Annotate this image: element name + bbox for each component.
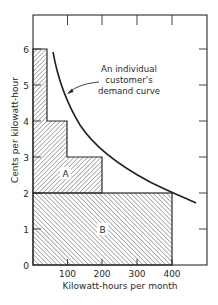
svg-text:100: 100 [59, 269, 76, 279]
svg-text:4: 4 [23, 117, 29, 127]
svg-text:300: 300 [128, 269, 145, 279]
svg-text:2: 2 [23, 189, 29, 199]
svg-text:1: 1 [23, 225, 29, 235]
region-b-label: B [99, 225, 105, 235]
block-rate-chart: A B 0 1 2 3 4 5 6 [0, 0, 218, 305]
x-tick-labels: 100 200 300 400 [59, 269, 181, 279]
svg-text:200: 200 [93, 269, 110, 279]
svg-text:3: 3 [23, 153, 29, 163]
svg-text:An individual: An individual [101, 64, 157, 74]
region-a-label: A [62, 169, 69, 179]
y-axis-title: Cents per kilowatt-hour [10, 77, 20, 183]
svg-text:400: 400 [163, 269, 180, 279]
demand-curve-annotation: An individual customer's demand curve [67, 64, 160, 96]
svg-text:demand curve: demand curve [98, 86, 160, 96]
svg-text:6: 6 [23, 45, 29, 55]
svg-text:0: 0 [23, 261, 29, 271]
svg-text:5: 5 [23, 81, 29, 91]
y-tick-labels: 0 1 2 3 4 5 6 [23, 45, 29, 271]
svg-text:customer's: customer's [105, 75, 153, 85]
x-axis-title: Kilowatt-hours per month [63, 281, 178, 291]
